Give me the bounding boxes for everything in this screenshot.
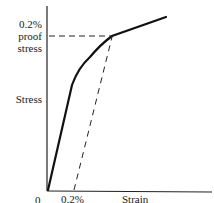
offset-dashed-line [74,37,112,190]
proof-stress-label: 0.2% proof stress [0,18,42,54]
x-tick-label: 0.2% [61,193,84,203]
proof-stress-line2: proof [0,30,42,42]
x-axis [47,191,212,192]
x-axis-label: Strain [122,193,148,203]
origin-label: 0 [35,194,41,203]
y-axis-label: Stress [0,93,42,105]
proof-stress-line1: 0.2% [0,18,42,30]
stress-strain-curve [48,17,166,190]
proof-stress-line3: stress [0,42,42,54]
